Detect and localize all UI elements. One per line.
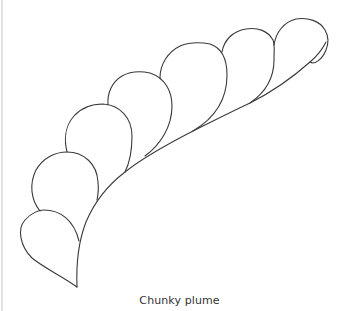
plume-leaf-4 [108, 72, 172, 156]
chunky-plume-drawing [0, 0, 345, 311]
figure-caption: Chunky plume [0, 294, 345, 307]
plume-leaf-6 [222, 28, 274, 103]
figure-page: Chunky plume [0, 0, 345, 311]
plume-leaf-5 [160, 43, 227, 131]
plume-leaf-2 [32, 152, 99, 211]
plume-leaf-3 [65, 104, 132, 172]
plume-leaf-1 [21, 210, 79, 287]
plume-stem [77, 42, 326, 287]
plume-leaf-7 [274, 18, 328, 62]
